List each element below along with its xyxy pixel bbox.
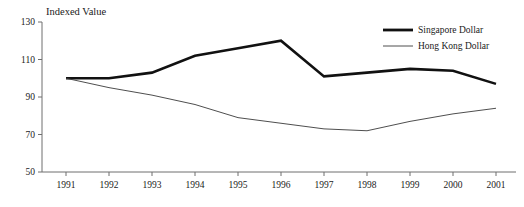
x-axis-ticks: 1991199219931994199519961997199819992000… bbox=[57, 172, 506, 190]
x-tick-label: 2001 bbox=[487, 180, 506, 190]
y-axis-ticks: 507090110130 bbox=[21, 17, 42, 177]
chart-container: Indexed Value 507090110130 1991199219931… bbox=[0, 0, 524, 207]
x-tick-label: 1994 bbox=[186, 180, 205, 190]
x-tick-label: 1997 bbox=[315, 180, 334, 190]
x-tick-label: 1995 bbox=[229, 180, 248, 190]
chart-legend: Singapore DollarHong Kong Dollar bbox=[383, 25, 490, 51]
series-line-hong-kong-dollar bbox=[66, 78, 496, 131]
x-tick-label: 1993 bbox=[143, 180, 162, 190]
x-tick-label: 1996 bbox=[272, 180, 291, 190]
y-tick-label: 110 bbox=[21, 55, 35, 65]
series-lines bbox=[66, 41, 496, 131]
x-tick-label: 1992 bbox=[100, 180, 119, 190]
x-tick-label: 1991 bbox=[57, 180, 76, 190]
y-tick-label: 90 bbox=[26, 92, 36, 102]
line-chart: Indexed Value 507090110130 1991199219931… bbox=[0, 0, 524, 207]
y-tick-label: 70 bbox=[26, 130, 36, 140]
x-tick-label: 2000 bbox=[444, 180, 463, 190]
x-tick-label: 1998 bbox=[358, 180, 377, 190]
x-tick-label: 1999 bbox=[401, 180, 420, 190]
legend-label-singapore-dollar: Singapore Dollar bbox=[418, 25, 484, 35]
y-tick-label: 130 bbox=[21, 17, 36, 27]
y-tick-label: 50 bbox=[26, 167, 36, 177]
legend-label-hong-kong-dollar: Hong Kong Dollar bbox=[418, 41, 490, 51]
chart-title: Indexed Value bbox=[46, 6, 106, 17]
